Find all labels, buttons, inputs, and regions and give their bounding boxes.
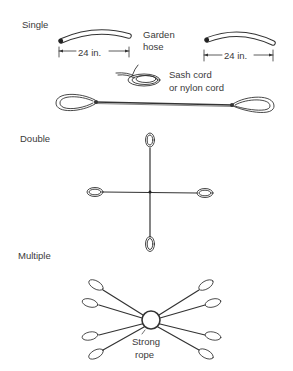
diagram-illustration <box>0 0 293 371</box>
single-sling-icon <box>56 94 274 112</box>
garden-hose-right-icon <box>204 34 273 61</box>
garden-hose-left-icon <box>59 32 129 57</box>
multiple-sling-icon <box>81 278 222 362</box>
coiled-cord-icon <box>116 65 160 86</box>
double-sling-icon <box>87 133 213 252</box>
